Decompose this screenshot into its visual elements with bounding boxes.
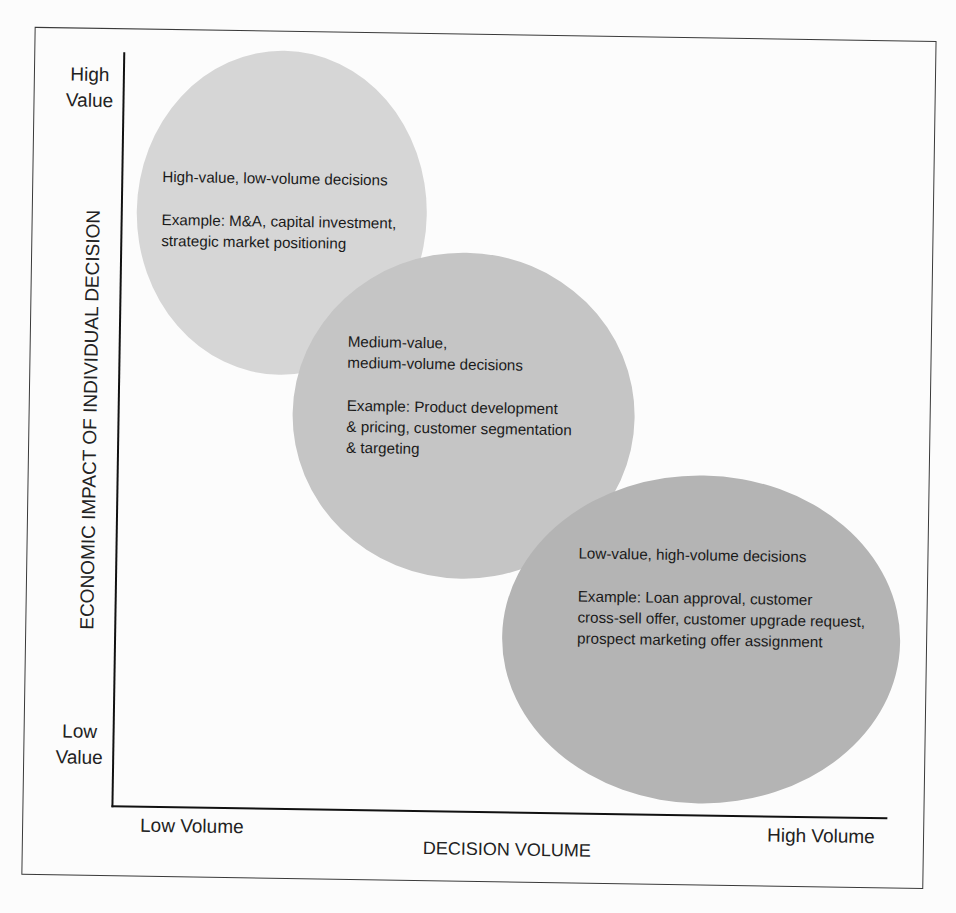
cluster-example: Example: Loan approval, customer cross-s… [577, 585, 866, 653]
y-axis-high-label-line: Value [59, 87, 119, 114]
y-axis-low-label-line: Low [49, 718, 109, 745]
y-axis-high-label-line: High [60, 61, 120, 88]
cluster-title-line: High-value, low-volume decisions [162, 166, 397, 191]
cluster-example-line: prospect marketing offer assignment [577, 627, 865, 653]
x-axis-title: DECISION VOLUME [387, 838, 627, 862]
x-axis-low-label: Low Volume [140, 815, 244, 839]
cluster-example: Example: M&A, capital investment, strate… [161, 209, 396, 255]
cluster-title-line: medium-volume decisions [347, 352, 573, 377]
cluster-title-line: Low-value, high-volume decisions [578, 542, 866, 568]
y-axis-low-label-line: Value [49, 744, 109, 771]
cluster-title: Low-value, high-volume decisions [578, 542, 866, 568]
y-axis-low-label: Low Value [49, 718, 110, 771]
cluster-title: High-value, low-volume decisions [162, 166, 397, 191]
cluster-example-line: strategic market positioning [161, 230, 396, 255]
y-axis-high-label: High Value [59, 61, 120, 114]
cluster-example-line: & targeting [346, 437, 572, 462]
x-axis-high-label: High Volume [767, 824, 875, 848]
medium-value-cluster-text: Medium-value, medium-volume decisions Ex… [346, 331, 573, 462]
cluster-title: Medium-value, medium-volume decisions [347, 331, 573, 377]
high-value-cluster-text: High-value, low-volume decisions Example… [161, 166, 397, 255]
diagram-page: High-value, low-volume decisions Example… [0, 0, 956, 913]
cluster-example: Example: Product development & pricing, … [346, 395, 572, 462]
low-value-cluster-text: Low-value, high-volume decisions Example… [577, 542, 866, 653]
